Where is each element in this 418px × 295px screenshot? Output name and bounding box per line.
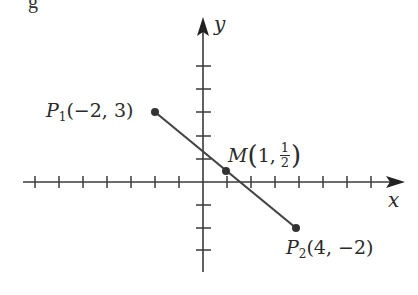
label-m-name: M	[228, 144, 247, 166]
label-m-x: 1,	[258, 144, 276, 166]
label-p1-name: P	[46, 99, 59, 121]
label-p2: P2(4, −2)	[286, 238, 373, 260]
label-m: M(1,12)	[228, 141, 301, 169]
label-m-fraction: 12	[280, 141, 290, 169]
label-m-close-paren: )	[291, 140, 301, 170]
label-m-open-paren: (	[247, 140, 257, 170]
point-p1	[151, 108, 159, 116]
x-axis-label: x	[388, 190, 399, 210]
label-m-frac-den: 2	[280, 156, 290, 169]
label-p1: P1(−2, 3)	[46, 101, 133, 123]
label-p2-name: P	[286, 236, 299, 258]
label-m-frac-num: 1	[280, 141, 290, 156]
label-p2-coords: (4, −2)	[306, 236, 373, 258]
label-p1-coords: (−2, 3)	[66, 99, 133, 121]
midpoint-diagram: g	[0, 0, 418, 295]
point-p2	[292, 224, 300, 232]
y-axis-label: y	[214, 14, 225, 34]
